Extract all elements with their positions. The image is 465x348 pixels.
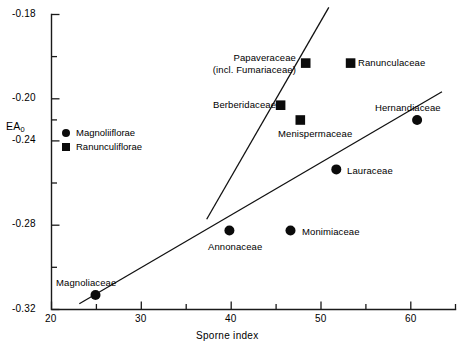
- data-point-papaveraceae[interactable]: [301, 58, 311, 68]
- point-label-menispermaceae: Menispermaceae: [278, 128, 352, 139]
- point-label-berberidaceae: Berberidaceae: [213, 99, 276, 110]
- point-label-papaveraceae-line1: Papaveraceae: [148, 52, 296, 64]
- trend-line-ranunculiflorae: [207, 7, 329, 219]
- trend-line-magnoliiflorae: [79, 92, 442, 304]
- x-axis-major-ticks: [52, 302, 411, 310]
- point-label-ranunculaceae: Ranunculaceae: [358, 57, 425, 68]
- data-point-lauraceae[interactable]: [331, 164, 341, 174]
- y-tick-label-1: -0.20: [12, 92, 36, 103]
- legend-label-ranunculiflorae: Ranunculiflorae: [76, 141, 142, 152]
- point-label-papaveraceae: Papaveraceae (incl. Fumariaceae): [148, 52, 296, 75]
- data-point-menispermaceae[interactable]: [296, 115, 306, 125]
- x-tick-label-2: 40: [225, 313, 237, 324]
- data-point-magnoliaceae[interactable]: [91, 290, 101, 300]
- y-tick-label-4: -0.32: [12, 303, 36, 314]
- y-axis-title-text: EA: [6, 120, 21, 132]
- data-point-ranunculaceae[interactable]: [346, 58, 356, 68]
- y-axis-title-subscript: 0: [21, 125, 25, 134]
- y-tick-label-3: -0.28: [12, 218, 36, 229]
- point-label-lauraceae: Lauraceae: [347, 165, 393, 176]
- point-label-papaveraceae-line2: (incl. Fumariaceae): [148, 64, 296, 76]
- y-axis-title: EA0: [6, 120, 25, 132]
- x-tick-label-0: 20: [45, 313, 57, 324]
- y-axis-minor-ticks: [52, 57, 58, 268]
- scatter-plot-figure: -0.18 -0.20 -0.24 -0.28 -0.32 20 30 40 5…: [0, 0, 465, 348]
- data-point-annonaceae[interactable]: [224, 226, 234, 236]
- x-axis-title: Sporne index: [196, 330, 259, 341]
- data-point-berberidaceae[interactable]: [276, 100, 286, 110]
- legend-item-ranunculiflorae: Ranunculiflorae: [62, 141, 142, 152]
- data-point-hernandiaceae[interactable]: [412, 115, 422, 125]
- point-label-magnoliaceae: Magnoliaceae: [56, 277, 116, 288]
- x-tick-label-1: 30: [135, 313, 147, 324]
- point-label-monimiaceae: Monimiaceae: [302, 226, 360, 237]
- circle-marker-icon: [62, 129, 70, 137]
- x-axis-minor-ticks: [96, 304, 455, 310]
- point-label-annonaceae: Annonaceae: [208, 241, 262, 252]
- legend-item-magnoliiflorae: Magnoliiflorae: [62, 127, 135, 138]
- y-tick-label-2: -0.24: [12, 134, 36, 145]
- x-tick-label-3: 50: [315, 313, 327, 324]
- data-point-monimiaceae[interactable]: [286, 226, 296, 236]
- square-marker-icon: [62, 143, 70, 151]
- y-tick-label-0: -0.18: [12, 8, 36, 19]
- legend-label-magnoliiflorae: Magnoliiflorae: [76, 127, 135, 138]
- x-tick-label-4: 60: [405, 313, 417, 324]
- point-label-hernandiaceae: Hernandiaceae: [375, 102, 441, 113]
- y-axis-major-ticks: [52, 15, 60, 310]
